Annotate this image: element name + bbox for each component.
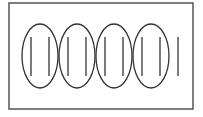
group-ellipse-4 [133, 24, 169, 88]
diagram-frame [9, 3, 193, 109]
group-ellipse-3 [96, 24, 132, 88]
group-ellipse-2 [59, 24, 95, 88]
tally-lines [31, 37, 178, 76]
grouping-diagram [0, 0, 203, 117]
group-ellipses [22, 24, 169, 88]
group-ellipse-1 [22, 24, 58, 88]
